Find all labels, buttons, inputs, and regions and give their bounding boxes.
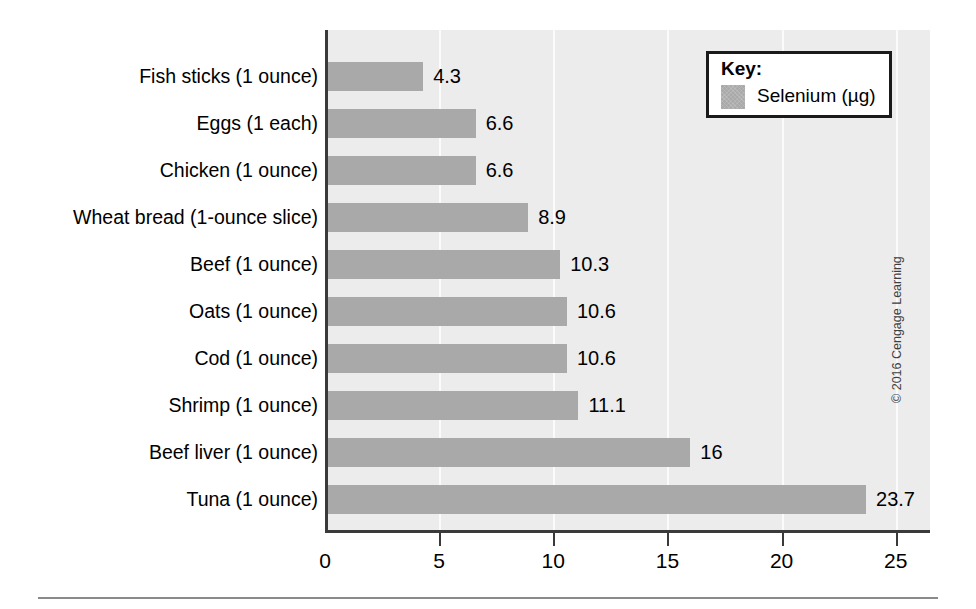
bar-value-label: 23.7 — [876, 488, 915, 510]
bar — [325, 485, 866, 514]
category-label: Shrimp (1 ounce) — [0, 394, 318, 416]
x-tick-mark — [439, 533, 441, 546]
x-tick-label: 0 — [319, 549, 331, 573]
bar-row: 6.6 — [325, 147, 930, 194]
bar — [325, 203, 528, 232]
bar-value-label: 10.3 — [570, 253, 609, 275]
bar-row: 11.1 — [325, 382, 930, 429]
bar-row: 10.6 — [325, 288, 930, 335]
bar-value-label: 10.6 — [577, 300, 616, 322]
bar-row: 10.3 — [325, 241, 930, 288]
bar — [325, 156, 476, 185]
bar-row: 23.7 — [325, 476, 930, 523]
legend-key-box: Key: Selenium (µg) — [706, 51, 892, 118]
x-tick-mark — [782, 533, 784, 546]
bar — [325, 344, 567, 373]
x-tick-mark — [667, 533, 669, 546]
category-label: Eggs (1 each) — [0, 112, 318, 134]
bar — [325, 391, 578, 420]
bar — [325, 297, 567, 326]
category-label: Wheat bread (1-ounce slice) — [0, 206, 318, 228]
bar — [325, 62, 423, 91]
bar-value-label: 4.3 — [433, 65, 461, 87]
x-tick-label: 5 — [433, 549, 445, 573]
x-tick-label: 15 — [656, 549, 679, 573]
bar-value-label: 6.6 — [486, 112, 514, 134]
category-axis-labels: Fish sticks (1 ounce)Eggs (1 each)Chicke… — [0, 30, 318, 530]
legend-title: Key: — [721, 58, 762, 80]
bar-row: 8.9 — [325, 194, 930, 241]
y-axis-line — [325, 30, 328, 533]
bar — [325, 109, 476, 138]
bar-value-label: 6.6 — [486, 159, 514, 181]
chart-figure: 4.36.66.68.910.310.610.611.11623.7 Fish … — [0, 0, 976, 609]
legend-swatch-icon — [721, 85, 745, 109]
legend-entry-label: Selenium (µg) — [757, 84, 876, 108]
bar-row: 10.6 — [325, 335, 930, 382]
x-tick-mark — [553, 533, 555, 546]
bar-row: 16 — [325, 429, 930, 476]
x-tick-label: 10 — [542, 549, 565, 573]
category-label: Cod (1 ounce) — [0, 347, 318, 369]
bar — [325, 438, 690, 467]
bar-value-label: 11.1 — [588, 394, 625, 416]
x-tick-label: 20 — [770, 549, 793, 573]
category-label: Fish sticks (1 ounce) — [0, 65, 318, 87]
x-tick-mark — [896, 533, 898, 546]
bar-value-label: 10.6 — [577, 347, 616, 369]
x-axis-ticks: 0510152025 — [325, 533, 930, 583]
category-label: Beef liver (1 ounce) — [0, 441, 318, 463]
bar-value-label: 16 — [700, 441, 722, 463]
category-label: Tuna (1 ounce) — [0, 488, 318, 510]
category-label: Beef (1 ounce) — [0, 253, 318, 275]
copyright-credit: © 2016 Cengage Learning — [890, 223, 904, 403]
category-label: Oats (1 ounce) — [0, 300, 318, 322]
category-label: Chicken (1 ounce) — [0, 159, 318, 181]
x-tick-label: 25 — [884, 549, 907, 573]
bar-value-label: 8.9 — [538, 206, 566, 228]
bottom-divider-rule — [38, 597, 938, 599]
bar — [325, 250, 560, 279]
